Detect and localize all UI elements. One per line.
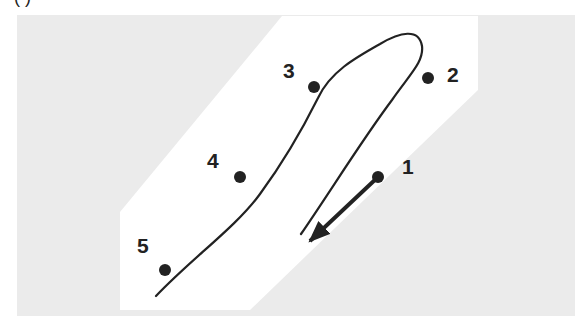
point-2-label: 2 [447,63,459,86]
point-2-dot [422,72,434,84]
point-4-dot [234,171,246,183]
point-5-label: 5 [137,234,149,257]
trajectory-diagram: 12345 [0,0,583,332]
point-1-dot [372,171,384,183]
point-1-label: 1 [402,155,414,178]
point-3-dot [308,81,320,93]
point-3-label: 3 [283,59,295,82]
point-5-dot [159,264,171,276]
point-4-label: 4 [207,149,219,172]
